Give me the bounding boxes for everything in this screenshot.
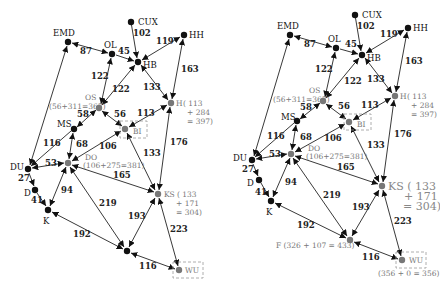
weight-label: 163: [181, 64, 199, 74]
node-sum-label: = 304): [403, 200, 440, 213]
weight-label: 53: [269, 149, 281, 159]
weight-label: 45: [118, 46, 130, 56]
weight-label: 219: [99, 198, 117, 208]
node-bi[interactable]: [122, 126, 128, 132]
weight-label: 192: [73, 229, 91, 239]
node-label: OS: [85, 93, 96, 102]
node-d[interactable]: [256, 177, 262, 183]
node-sum-label: + 171: [176, 199, 199, 208]
node-label: HB: [367, 53, 381, 63]
node-cux[interactable]: [352, 12, 358, 18]
node-label: HH: [189, 30, 204, 40]
weight-label: 113: [361, 100, 379, 110]
node-sum-label: + 284: [187, 108, 210, 117]
weight-label: 41: [31, 195, 43, 205]
node-f[interactable]: [124, 248, 130, 254]
edge-weights: 102 87 45 119 122 122 133 163 58 56 113 …: [18, 28, 199, 271]
node-label: K: [266, 207, 273, 217]
right-graph: 102 87 45 119 122 122 133 163 58 56 113 …: [233, 10, 440, 278]
node-wu[interactable]: [176, 267, 182, 273]
node-emd[interactable]: [65, 39, 71, 45]
node-label: DU: [233, 153, 247, 163]
weight-label: 119: [156, 36, 174, 46]
node-du[interactable]: [25, 166, 31, 172]
node-label: H: [400, 92, 407, 101]
node-bi[interactable]: [346, 119, 352, 125]
weight-label: 223: [170, 224, 188, 234]
node-sum-label: (56+311=367): [49, 102, 106, 111]
node-label: K: [43, 216, 50, 226]
node-du[interactable]: [249, 157, 255, 163]
weight-label: 116: [139, 261, 157, 271]
node-label: OL: [328, 34, 341, 44]
node-label: CUX: [362, 10, 383, 20]
weight-label: 56: [338, 101, 350, 111]
node-hb[interactable]: [359, 52, 365, 58]
node-label: F (326 + 107 = 433): [276, 241, 355, 250]
weight-label: 133: [143, 82, 161, 92]
node-k[interactable]: [45, 207, 51, 213]
weight-label: 219: [323, 190, 341, 200]
edge-ms-do: [292, 125, 296, 150]
node-ks[interactable]: [379, 183, 385, 189]
weight-label: 176: [170, 137, 188, 147]
node-sum-label: ( 133: [177, 190, 197, 199]
edge-weights: 102 87 45 119 122 122 133 163 58 56 113 …: [242, 21, 423, 262]
weight-label: 41: [255, 187, 267, 197]
node-label: D: [247, 178, 254, 188]
node-label: HB: [143, 60, 157, 70]
node-label: MS: [57, 119, 72, 129]
node-do[interactable]: [65, 160, 71, 166]
node-do[interactable]: [288, 151, 294, 157]
weight-label: 102: [133, 28, 151, 38]
node-sum-label: (106+275=381): [83, 161, 144, 170]
node-sum-label: (356 + 0 = 356): [378, 269, 439, 278]
weight-label: 165: [337, 162, 355, 172]
node-label: CUX: [138, 17, 159, 27]
edge-ol-os: [325, 52, 335, 97]
node-label: KS: [164, 190, 175, 199]
node-label: OS: [309, 86, 320, 95]
node-hh[interactable]: [181, 32, 187, 38]
node-k[interactable]: [268, 198, 274, 204]
node-h[interactable]: [392, 93, 398, 99]
weight-label: 94: [285, 177, 297, 187]
weight-label: 106: [324, 133, 342, 143]
weight-label: 122: [315, 64, 333, 74]
weight-label: 27: [18, 173, 30, 183]
node-emd[interactable]: [287, 32, 293, 38]
node-ms[interactable]: [71, 126, 77, 132]
weight-label: 122: [112, 84, 130, 94]
weight-label: 133: [143, 148, 161, 158]
node-sum-label: + 284: [411, 101, 434, 110]
node-cux[interactable]: [128, 19, 134, 25]
weight-label: 116: [267, 131, 285, 141]
edge-ks-f: [129, 198, 155, 247]
node-ol[interactable]: [109, 51, 115, 57]
node-label: DU: [10, 162, 24, 172]
node-sum-label: ( 113: [407, 92, 427, 101]
weight-label: 87: [304, 39, 316, 49]
node-wu[interactable]: [399, 257, 405, 263]
node-h[interactable]: [168, 100, 174, 106]
node-sum-label: (56+311=367): [273, 95, 330, 104]
node-label: BI: [133, 127, 142, 136]
weight-label: 133: [367, 140, 385, 150]
weight-label: 53: [45, 158, 57, 168]
weight-label: 27: [242, 164, 254, 174]
edge-ms-do: [69, 133, 73, 159]
weight-label: 113: [137, 108, 155, 118]
node-d[interactable]: [32, 187, 38, 193]
weight-label: 122: [344, 76, 362, 86]
node-label: OL: [104, 40, 117, 50]
weight-label: 193: [352, 202, 370, 212]
node-ks[interactable]: [155, 191, 161, 197]
node-hh[interactable]: [405, 25, 411, 31]
node-hb[interactable]: [135, 59, 141, 65]
weight-label: 87: [80, 46, 92, 56]
node-ol[interactable]: [333, 45, 339, 51]
node-label: MS: [281, 112, 296, 122]
graph-canvas: 102 87 45 119 122 122 133 163 58 56 113 …: [0, 0, 440, 290]
weight-label: 122: [91, 71, 109, 81]
weight-label: 68: [76, 139, 88, 149]
